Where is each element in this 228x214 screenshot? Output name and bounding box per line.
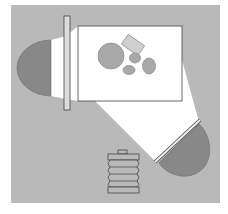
subject-right-ellipse xyxy=(143,58,156,74)
subject-bottom-ellipse xyxy=(123,66,135,75)
camera xyxy=(108,150,139,193)
camera-viewfinder xyxy=(118,150,127,154)
diagram-canvas xyxy=(0,0,228,214)
camera-front-standard xyxy=(108,154,139,160)
lighting-diagram xyxy=(0,0,228,214)
camera-rear-standard xyxy=(108,187,139,193)
camera-bellows xyxy=(108,160,139,187)
left-diffuser-panel xyxy=(64,16,70,110)
subject-small-ellipse-top xyxy=(130,53,141,63)
subject-large-circle xyxy=(98,43,124,69)
